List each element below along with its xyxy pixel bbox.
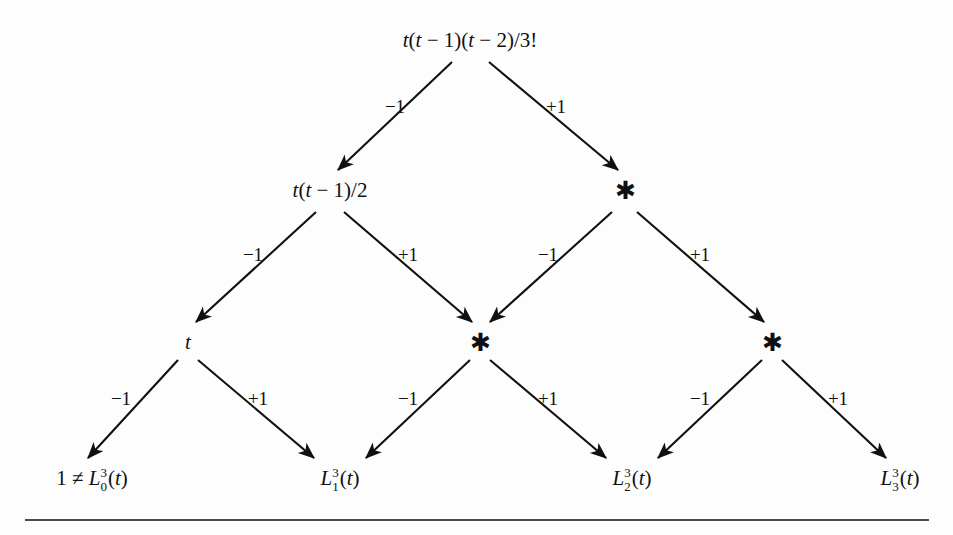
node-level2-a: t xyxy=(185,332,191,353)
node-leaf-1: L31(t) xyxy=(320,467,359,494)
node-level2-c: ✱ xyxy=(762,330,783,355)
leaf-0-subscript: 0 xyxy=(100,480,107,493)
figure-canvas: −1+1−1+1−1+1−1+1−1+1−1+1 t(t − 1)(t − 2)… xyxy=(0,0,953,535)
leaf-0-prefix: 1 ≠ xyxy=(56,466,89,490)
node-level1-right: ✱ xyxy=(615,178,636,203)
tree-edges-layer xyxy=(0,0,953,535)
edge-label-e-l1l-r: +1 xyxy=(398,245,418,264)
edge-arrow-e-l2b-l xyxy=(366,360,470,458)
edge-label-e-l2a-r: +1 xyxy=(248,389,268,408)
node-leaf-2: L32(t) xyxy=(612,467,651,494)
edge-label-e-l2b-l: −1 xyxy=(398,389,418,408)
leaf-1-subscript: 1 xyxy=(332,480,339,493)
edge-label-e-l2c-r: +1 xyxy=(828,389,848,408)
node-level1-left: t(t − 1)/2 xyxy=(293,180,368,201)
edge-label-e-l1r-r: +1 xyxy=(690,245,710,264)
edge-arrow-e-l2c-r xyxy=(782,360,886,458)
leaf-2-superscript: 3 xyxy=(624,466,631,479)
leaf-0-base: L xyxy=(89,466,101,490)
edge-arrow-e-l1l-l xyxy=(196,212,316,322)
leaf-0-superscript: 3 xyxy=(100,466,107,479)
leaf-3-superscript: 3 xyxy=(892,466,899,479)
edge-label-e-l1r-l: −1 xyxy=(538,245,558,264)
node-root: t(t − 1)(t − 2)/3! xyxy=(403,30,538,51)
edge-arrow-e-l1r-r xyxy=(637,212,764,322)
edge-arrow-e-l2b-r xyxy=(490,360,606,458)
edge-label-e-root-r: +1 xyxy=(546,97,566,116)
edge-label-e-l2a-l: −1 xyxy=(111,389,131,408)
node-leaf-0: 1 ≠ L30(t) xyxy=(56,467,128,494)
leaf-1-superscript: 3 xyxy=(332,466,339,479)
edge-arrow-e-l2a-r xyxy=(198,360,314,458)
leaf-3-base: L xyxy=(880,466,892,490)
leaf-2-subscript: 2 xyxy=(624,480,631,493)
bottom-horizontal-rule xyxy=(25,519,929,521)
node-level2-b: ✱ xyxy=(470,330,491,355)
leaf-3-subscript: 3 xyxy=(892,480,899,493)
edge-arrow-e-l2c-l xyxy=(658,360,762,458)
edge-label-e-root-l: −1 xyxy=(385,97,405,116)
node-leaf-3: L33(t) xyxy=(880,467,919,494)
leaf-2-base: L xyxy=(612,466,624,490)
edge-arrow-e-l1l-r xyxy=(344,212,472,322)
edge-label-e-l1l-l: −1 xyxy=(243,245,263,264)
edge-arrow-e-l2a-l xyxy=(88,360,178,458)
edge-lines xyxy=(88,62,886,458)
edge-arrow-e-l1r-l xyxy=(490,212,612,322)
edge-label-e-l2b-r: +1 xyxy=(538,389,558,408)
edge-label-e-l2c-l: −1 xyxy=(690,389,710,408)
leaf-1-base: L xyxy=(320,466,332,490)
